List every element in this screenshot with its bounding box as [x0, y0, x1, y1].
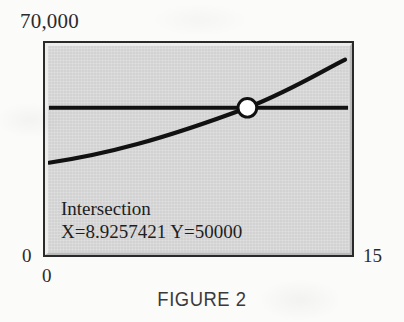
y-axis-max-label: 70,000 — [20, 11, 79, 32]
rising-curve-series — [49, 60, 345, 163]
annotation-coordinates: X=8.9257421 Y=50000 — [61, 221, 242, 243]
x-axis-max-label: 15 — [363, 246, 382, 265]
x-axis-min-label: 0 — [42, 266, 52, 285]
intersection-annotation: Intersection X=8.9257421 Y=50000 — [61, 198, 242, 243]
y-axis-min-label: 0 — [22, 246, 32, 265]
figure-container: 70,000 Intersection X=8.9257421 Y=50000 … — [0, 0, 404, 322]
figure-caption: FIGURE 2 — [16, 288, 388, 311]
intersection-marker — [238, 98, 257, 117]
annotation-title: Intersection — [61, 198, 242, 220]
plot-area: Intersection X=8.9257421 Y=50000 — [43, 41, 354, 257]
